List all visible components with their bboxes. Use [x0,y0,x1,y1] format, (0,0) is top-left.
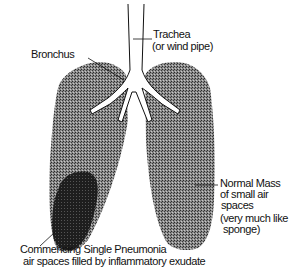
label-pneumonia-line2: air spaces filled by inflammatory exudat… [23,256,205,267]
label-normal-line3: spaces [221,200,253,211]
label-trachea-line1: Trachea [153,29,190,40]
label-pneumonia-line1: Commencing Single Pneumonia [20,244,166,255]
label-bronchus: Bronchus [31,49,74,60]
label-trachea-line2: (or wind pipe) [152,41,213,52]
label-normal-line5: sponge) [223,224,260,235]
